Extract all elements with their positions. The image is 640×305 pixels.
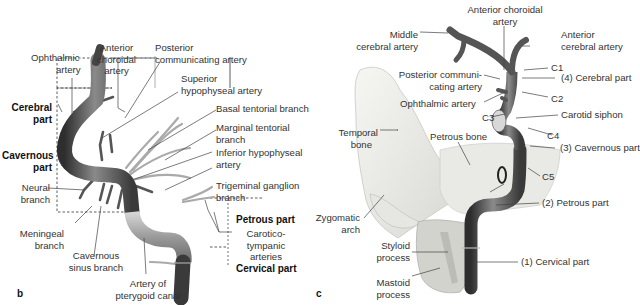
label-anterior-choroidal-artery-c: Anterior choroidalartery [465, 4, 545, 27]
label-cervical-part-c: (1) Cervical part [521, 256, 589, 268]
label-superior-hypophyseal-artery: Superiorhypophyseal artery [181, 73, 262, 96]
label-anterior-cerebral-artery: Anteriorcerebral artery [561, 29, 623, 52]
label-c5: C5 [542, 171, 554, 183]
panel-letter-c: c [316, 288, 322, 299]
label-basal-tentorial-branch: Basal tentorial branch [216, 103, 309, 115]
section-label-petrous-part: Petrous part [236, 214, 295, 226]
label-artery-of-pterygoid-canal: Artery ofpterygoid canal [108, 278, 188, 301]
label-meningeal-branch: Meningealbranch [8, 228, 64, 251]
label-middle-cerebral-artery: Middlecerebral artery [350, 29, 418, 52]
label-cavernous-sinus-branch: Cavernoussinus branch [66, 250, 126, 273]
label-mastoid-process: Mastoidprocess [370, 277, 410, 300]
label-carotid-siphon: Carotid siphon [561, 109, 623, 121]
label-ophthalmic-artery-b: Ophthalmicartery [30, 52, 81, 75]
label-c4: C4 [547, 130, 559, 142]
label-ophthalmic-artery-c: Ophthalmic artery [400, 98, 476, 110]
label-trigeminal-ganglion-branch: Trigeminal ganglionbranch [216, 180, 299, 203]
label-c3: C3 [482, 112, 494, 124]
section-label-cerebral-part: Cerebralpart [10, 102, 52, 125]
label-neural-branch: Neuralbranch [10, 182, 50, 205]
panel-letter-b: b [17, 288, 23, 299]
section-label-cervical-part: Cervical part [236, 263, 297, 275]
label-styloid-process: Styloidprocess [370, 240, 410, 263]
label-inferior-hypophyseal-artery: Inferior hypophysealartery [216, 147, 302, 170]
label-zygomatic-arch: Zygomaticarch [310, 212, 360, 235]
label-posterior-communicating-artery-b: Posteriorcommunicating artery [155, 42, 247, 65]
label-anterior-choroidal-artery-b: Anteriorchoroidalartery [97, 42, 136, 77]
label-posterior-communicating-artery-c: Posterior communi-cating artery [396, 69, 482, 92]
label-petrous-bone: Petrous bone [430, 131, 487, 143]
label-cerebral-part-c: (4) Cerebral part [561, 72, 631, 84]
label-temporal-bone: Temporalbone [330, 127, 378, 150]
section-label-cavernous-part: Cavernouspart [2, 150, 52, 173]
label-marginal-tentorial-branch: Marginal tentorialbranch [216, 122, 290, 145]
label-cavernous-part-c: (3) Cavernous part [560, 142, 640, 154]
label-c2: C2 [551, 93, 563, 105]
label-petrous-part-c: (2) Petrous part [542, 197, 609, 209]
label-caroticotympanic-arteries: Carotico-tympanicarteries [238, 228, 294, 263]
